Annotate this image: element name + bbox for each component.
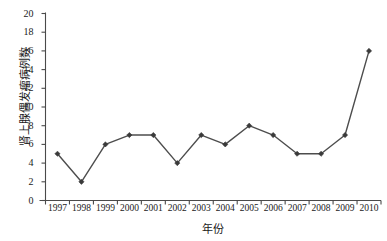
plot-area bbox=[0, 0, 387, 241]
data-point-marker bbox=[127, 132, 132, 137]
line-chart: 肾上腺偶发瘤病例数 02468101214161820 199719981999… bbox=[0, 0, 387, 241]
data-line bbox=[57, 51, 369, 182]
data-point-marker bbox=[366, 48, 371, 53]
